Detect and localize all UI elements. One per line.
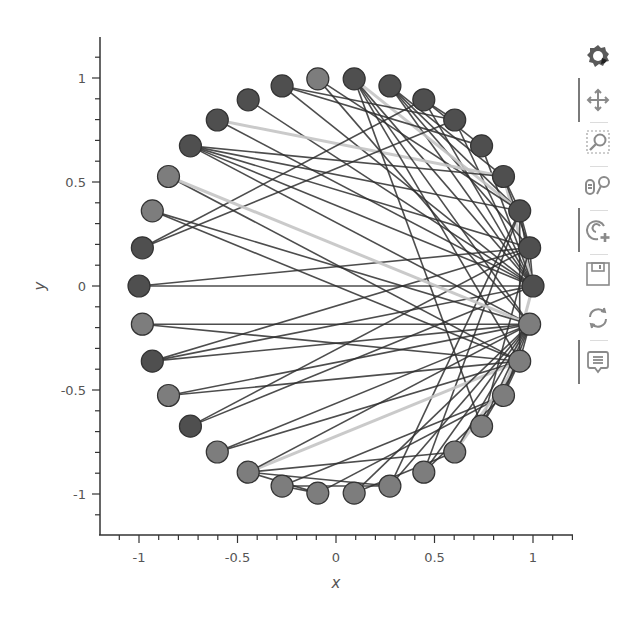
y-tick-label: -1 (73, 487, 86, 502)
graph-node[interactable] (492, 384, 514, 406)
graph-node[interactable] (128, 275, 150, 297)
graph-node[interactable] (307, 482, 329, 504)
hover-icon (586, 349, 610, 375)
wheel-zoom-icon (584, 174, 612, 198)
graph-node[interactable] (237, 89, 259, 111)
save-tool[interactable] (574, 256, 622, 292)
graph-edge (354, 324, 529, 493)
graph-node[interactable] (492, 166, 514, 188)
graph-node[interactable] (271, 475, 293, 497)
graph-edge (152, 211, 529, 324)
graph-edge (390, 86, 520, 211)
graph-node[interactable] (131, 313, 153, 335)
graph-node[interactable] (206, 441, 228, 463)
graph-edge (190, 146, 529, 248)
graph-edge (318, 395, 504, 493)
reset-tool[interactable] (574, 300, 622, 336)
graph-node[interactable] (379, 75, 401, 97)
wheel-zoom-tool[interactable] (574, 168, 622, 204)
graph-node[interactable] (158, 166, 180, 188)
network-plot[interactable]: -1-0.500.51 -1-0.500.51 x y (0, 0, 640, 620)
graph-node[interactable] (158, 384, 180, 406)
x-tick-label: -0.5 (225, 550, 250, 565)
x-ticks: -1-0.500.51 (119, 535, 572, 565)
bokeh-logo[interactable] (574, 38, 622, 74)
y-ticks: -1-0.500.51 (61, 57, 100, 515)
graph-node[interactable] (519, 237, 541, 259)
x-tick-label: -1 (133, 550, 146, 565)
y-tick-label: 1 (78, 71, 86, 86)
graph-node[interactable] (307, 68, 329, 90)
x-tick-label: 0.5 (424, 550, 445, 565)
y-tick-label: 0.5 (65, 175, 86, 190)
box-zoom-tool[interactable] (574, 124, 622, 160)
graph-edge (354, 452, 455, 493)
save-icon (585, 261, 611, 287)
toolbar (574, 36, 622, 396)
bokeh-logo-icon (585, 43, 611, 69)
graph-node[interactable] (141, 200, 163, 222)
graph-node[interactable] (343, 68, 365, 90)
graph-node[interactable] (179, 415, 201, 437)
reset-icon (586, 306, 610, 330)
graph-node[interactable] (413, 461, 435, 483)
graph-node[interactable] (179, 135, 201, 157)
y-tick-label: 0 (78, 279, 86, 294)
graph-edge (318, 79, 530, 324)
box-zoom-icon (585, 129, 611, 155)
zoom-in-icon (584, 216, 612, 244)
graph-node[interactable] (206, 109, 228, 131)
x-axis-title: x (331, 574, 341, 592)
pan-tool[interactable] (574, 82, 622, 118)
zoom-in-tool[interactable] (574, 212, 622, 248)
graph-edge (169, 324, 530, 395)
graph-node[interactable] (237, 461, 259, 483)
graph-node[interactable] (141, 350, 163, 372)
graph-edge (169, 361, 520, 395)
graph-node[interactable] (271, 75, 293, 97)
graph-node[interactable] (444, 109, 466, 131)
graph-node[interactable] (444, 441, 466, 463)
graph-node[interactable] (379, 475, 401, 497)
y-tick-label: -0.5 (61, 383, 86, 398)
x-tick-label: 0 (332, 550, 340, 565)
graph-node[interactable] (519, 313, 541, 335)
graph-edge (248, 100, 533, 286)
graph-node[interactable] (471, 135, 493, 157)
graph-node[interactable] (131, 237, 153, 259)
graph-node[interactable] (509, 200, 531, 222)
hover-tool[interactable] (574, 344, 622, 380)
graph-edge (139, 248, 530, 286)
graph-node[interactable] (522, 275, 544, 297)
pan-icon (586, 88, 610, 112)
graph-edge (248, 324, 529, 472)
graph-edge (282, 395, 503, 486)
graph-node[interactable] (471, 415, 493, 437)
y-axis-title: y (31, 280, 49, 291)
graph-node[interactable] (343, 482, 365, 504)
graph-node[interactable] (509, 350, 531, 372)
graph-edge (190, 248, 529, 426)
graph-node[interactable] (413, 89, 435, 111)
x-tick-label: 1 (529, 550, 537, 565)
